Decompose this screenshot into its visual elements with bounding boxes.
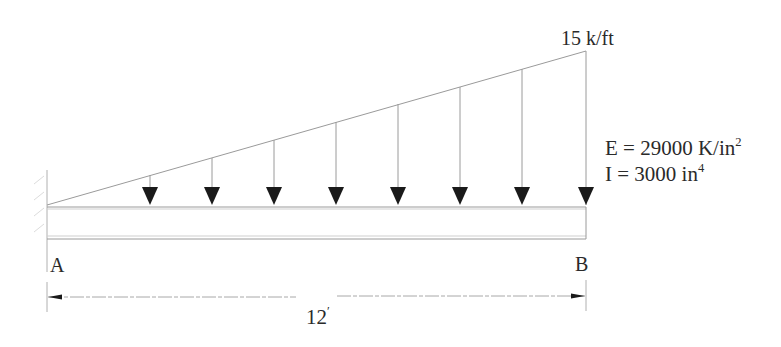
- load-envelope: [47, 51, 586, 205]
- dimension-arrow-right-icon: [571, 294, 585, 299]
- support-hatch: [34, 176, 44, 232]
- point-a-label: A: [50, 255, 64, 275]
- elastic-modulus-label: E = 29000 K/in2: [605, 138, 742, 159]
- span-length-label: 12′: [306, 307, 330, 328]
- elastic-modulus-exponent: 2: [735, 135, 741, 149]
- load-arrow-icon: [328, 122, 344, 205]
- load-arrow-icon: [266, 140, 282, 205]
- load-arrow-icon: [142, 175, 158, 205]
- elastic-modulus-text: E = 29000 K/in: [605, 136, 735, 160]
- beam: [47, 207, 586, 239]
- span-length-value: 12: [306, 305, 327, 329]
- load-magnitude-label: 15 k/ft: [561, 28, 614, 48]
- load-arrow-icon: [578, 187, 594, 205]
- moment-of-inertia-label: I = 3000 in4: [605, 164, 704, 185]
- load-arrow-icon: [390, 104, 406, 205]
- load-arrow-icon: [452, 87, 468, 205]
- point-b-label: B: [575, 254, 588, 274]
- feet-mark: ′: [327, 304, 330, 318]
- moment-of-inertia-exponent: 4: [698, 161, 704, 175]
- moment-of-inertia-text: I = 3000 in: [605, 162, 698, 186]
- load-arrows: [142, 69, 594, 205]
- load-arrow-icon: [514, 69, 530, 205]
- load-arrow-icon: [204, 158, 220, 205]
- dimension-arrow-left-icon: [48, 295, 62, 300]
